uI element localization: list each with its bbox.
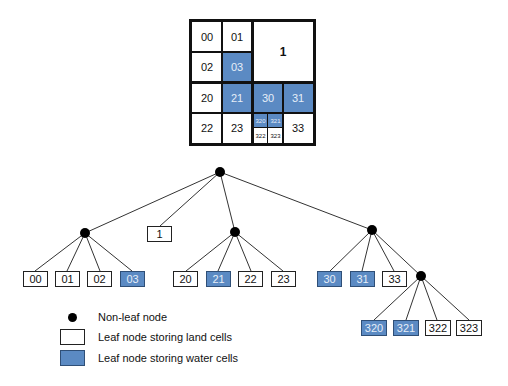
leaf-node-02: 02 [87,271,112,287]
non-leaf-node-root [215,167,225,177]
tree-edges [35,172,469,320]
legend-non-leaf-label: Non-leaf node [98,311,167,323]
land-leaf-icon [60,329,85,345]
leaf-node-1: 1 [147,226,172,242]
legend-water-label: Leaf node storing water cells [98,352,238,364]
non-leaf-node-0 [80,228,90,238]
water-leaf-icon [60,350,85,366]
non-leaf-node-3 [367,225,377,235]
leaf-node-30: 30 [317,271,342,287]
leaf-node-23: 23 [271,271,296,287]
leaf-node-03: 03 [120,271,145,287]
leaf-node-323: 323 [456,320,482,336]
leaf-node-31: 31 [350,271,375,287]
leaf-node-20: 20 [173,271,198,287]
non-leaf-node-icon [68,313,77,322]
non-leaf-node-2 [230,227,240,237]
leaf-node-321: 321 [393,320,419,336]
leaf-node-322: 322 [425,320,451,336]
leaf-node-33: 33 [382,271,407,287]
leaf-node-320: 320 [361,320,387,336]
leaf-node-01: 01 [55,271,80,287]
non-leaf-node-32 [416,271,426,281]
leaf-node-22: 22 [238,271,263,287]
legend-land-label: Leaf node storing land cells [98,331,232,343]
leaf-node-00: 00 [23,271,48,287]
leaf-node-21: 21 [206,271,231,287]
